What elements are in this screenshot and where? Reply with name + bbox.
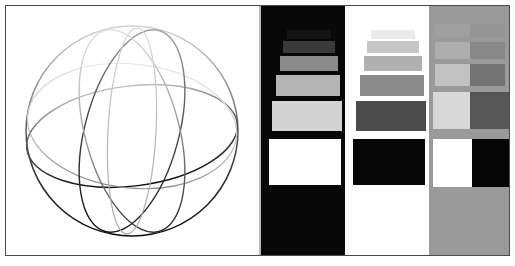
test-chart-figure bbox=[0, 0, 515, 266]
gray-pair-r4-dark bbox=[470, 92, 509, 129]
gray-pair-r1-light bbox=[435, 24, 470, 37]
sphere-equator-ellipse bbox=[21, 73, 244, 198]
light-ramp-patch-q2 bbox=[367, 41, 419, 53]
dark-ramp-patch-p1 bbox=[287, 30, 331, 39]
light-background-ramp-panel bbox=[345, 6, 429, 255]
gray-pair-r5-dark bbox=[472, 139, 509, 187]
light-ramp-patch-q1 bbox=[371, 30, 415, 39]
wireframe-sphere-panel bbox=[6, 6, 259, 255]
figure-frame bbox=[5, 5, 510, 256]
dark-ramp-patch-p6 bbox=[269, 139, 341, 185]
gray-pair-r5-light bbox=[433, 139, 472, 187]
gray-pair-r1-dark bbox=[470, 24, 505, 37]
gray-pair-r3-light bbox=[435, 64, 470, 86]
dark-ramp-patch-p3 bbox=[280, 56, 338, 71]
light-ramp-patch-q3 bbox=[364, 56, 422, 71]
light-ramp-patch-q4 bbox=[360, 75, 424, 96]
light-ramp-patch-q6 bbox=[353, 139, 425, 185]
light-ramp-patch-q5 bbox=[356, 101, 426, 131]
sphere-meridian-left bbox=[60, 18, 205, 243]
sphere-outer-circle bbox=[26, 26, 238, 236]
sphere-meridian-center bbox=[103, 27, 162, 235]
sphere-meridian-right bbox=[60, 18, 205, 243]
dark-ramp-patch-p2 bbox=[283, 41, 335, 53]
sphere-wireframe-graphic bbox=[6, 6, 259, 255]
dark-background-ramp-panel bbox=[261, 6, 345, 255]
gray-background-pair-panel bbox=[429, 6, 509, 255]
dark-ramp-patch-p5 bbox=[272, 101, 342, 131]
gray-pair-r2-dark bbox=[470, 42, 505, 59]
gray-pair-r2-light bbox=[435, 42, 470, 59]
gray-pair-r4-light bbox=[433, 92, 472, 129]
gray-pair-r3-dark bbox=[470, 64, 505, 86]
dark-ramp-patch-p4 bbox=[276, 75, 340, 96]
